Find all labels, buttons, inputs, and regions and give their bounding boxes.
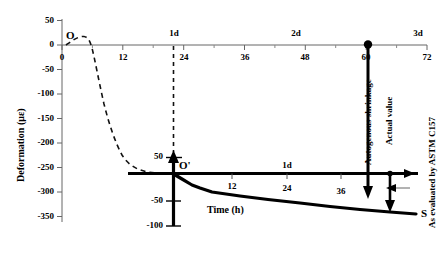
primary-xtick-36: 36 [235, 53, 255, 62]
primary-xtick-12: 12 [113, 53, 133, 62]
actual-value-annotation: Actual value [385, 97, 394, 145]
actual-value-arrowhead [363, 186, 373, 199]
astm-curve-end-label: S [421, 208, 427, 219]
secondary-day-1d: 1d [277, 161, 297, 170]
primary-x-major-ticks [62, 45, 427, 50]
primary-day-2d: 2d [286, 29, 306, 38]
primary-y-ticks [57, 21, 62, 217]
secondary-x-axis-title: Time (h) [207, 205, 244, 215]
primary-ytick-neg150: -150 [16, 114, 54, 123]
primary-xtick-48: 48 [295, 53, 315, 62]
primary-ytick-neg350: -350 [16, 212, 54, 221]
primary-ytick-0: 0 [22, 40, 54, 49]
secondary-ytick-neg100: -100 [129, 221, 163, 230]
primary-xtick-24: 24 [174, 53, 194, 62]
autogenous-shrinkage-chart: Deformation (με) 50 0 -50 -100 -150 -200… [0, 0, 440, 253]
secondary-y-axis-arrowhead [168, 150, 179, 163]
primary-ytick-neg300: -300 [16, 187, 54, 196]
primary-xtick-0: 0 [52, 53, 72, 62]
primary-xtick-72: 72 [417, 53, 437, 62]
secondary-xtick-24: 24 [277, 184, 297, 193]
primary-day-3d: 3d [408, 29, 428, 38]
primary-ytick-neg50: -50 [18, 65, 54, 74]
secondary-origin-label: O' [179, 160, 191, 171]
difference-top-arrowhead [404, 169, 415, 178]
primary-ytick-neg200: -200 [16, 138, 54, 147]
primary-xtick-60: 60 [356, 53, 376, 62]
primary-day-1d: 1d [164, 29, 184, 38]
astm-c157-annotation: As evaluated by ASTM C157 [428, 117, 437, 228]
primary-ytick-50: 50 [22, 16, 54, 25]
secondary-xtick-36: 36 [331, 187, 351, 196]
secondary-ytick-neg50: -50 [133, 196, 163, 205]
primary-ytick-neg100: -100 [16, 89, 54, 98]
primary-ytick-neg250: -250 [16, 163, 54, 172]
primary-origin-label: O [66, 30, 75, 41]
secondary-xtick-12: 12 [222, 182, 242, 191]
autogenous-shrinkage-annotation: Autogenous shrinkage [364, 79, 373, 165]
secondary-ytick-50: 50 [137, 152, 163, 161]
